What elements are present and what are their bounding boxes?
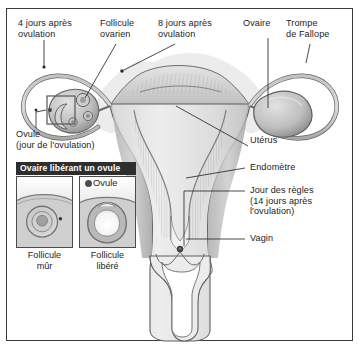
inset-ovum-label: Ovule [93,178,118,188]
label-eight-days-after-ovulation: 8 jours après ovulation [158,18,212,39]
mature-follicle-illustration [17,177,72,247]
label-uterus: Utérus [250,135,277,146]
right-ovary [254,91,312,137]
inset-header-text: Ovaire libérant un ovule [16,162,136,175]
diagram-figure: 4 jours après ovulation Follicule ovarie… [0,0,359,349]
label-ovary: Ovaire [243,18,270,29]
caption-mature-follicle: Follicule mûr [16,250,73,271]
caption-released-follicle: Follicule libéré [79,250,136,271]
inset-panel-mature-follicle [16,176,73,248]
label-ovum-day-of-ovulation: Ovule (jour de l'ovulation) [16,129,95,150]
label-vagina: Vagin [250,233,273,244]
label-ovarian-follicle: Follicule ovarien [100,18,134,39]
inset-ovum-legend: Ovule [84,178,119,188]
label-endometrium: Endomètre [250,162,295,173]
inset-header-bar: Ovaire libérant un ovule [16,162,136,175]
ovum-dot-icon [85,180,92,187]
label-fallopian-tube: Trompe de Fallope [286,18,329,39]
ovulation-inset: Ovaire libérant un ovule [16,162,136,248]
label-period-day: Jour des règles (14 jours après l'ovulat… [250,185,314,217]
label-four-days-after-ovulation: 4 jours après ovulation [18,18,72,39]
